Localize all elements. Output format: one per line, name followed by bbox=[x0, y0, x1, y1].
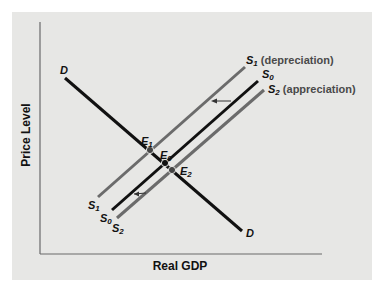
demand-label-bottom: D bbox=[246, 227, 254, 239]
s2-label-top: S2 (appreciation) bbox=[268, 83, 356, 97]
s0-label-top: S0 bbox=[262, 68, 274, 82]
e0-label: E0 bbox=[160, 149, 172, 163]
e2-label: E2 bbox=[180, 165, 192, 179]
e2-point bbox=[168, 166, 175, 173]
x-axis-title: Real GDP bbox=[153, 259, 208, 273]
s2-label-bottom: S2 bbox=[112, 222, 124, 236]
y-axis-title: Price Level bbox=[19, 103, 33, 166]
s0-supply-curve bbox=[112, 81, 258, 210]
s1-supply-curve bbox=[98, 67, 245, 197]
e1-label: E1 bbox=[141, 135, 153, 149]
s1-label-top: S1 (depreciation) bbox=[246, 54, 334, 68]
shift-arrow-left-icon bbox=[211, 99, 231, 104]
s0-label-bottom: S0 bbox=[100, 212, 112, 226]
aggregate-supply-demand-diagram: Real GDP Price Level E1 E0 E2 D D S1 S0 … bbox=[0, 0, 384, 291]
demand-label-top: D bbox=[60, 64, 68, 76]
s1-label-bottom: S1 bbox=[88, 199, 100, 213]
s2-supply-curve bbox=[117, 90, 264, 218]
